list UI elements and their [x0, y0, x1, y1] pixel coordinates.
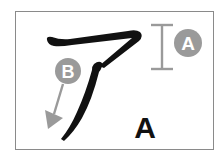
direction-arrow-icon	[45, 84, 63, 129]
badge-a-label: A	[181, 33, 195, 54]
katakana-a-diagram: A B	[0, 0, 224, 157]
badge-b-label: B	[62, 62, 75, 82]
character-label: A	[127, 113, 163, 143]
height-marker-icon	[151, 25, 173, 69]
badge-a: A	[174, 29, 202, 57]
badge-b: B	[55, 58, 81, 84]
